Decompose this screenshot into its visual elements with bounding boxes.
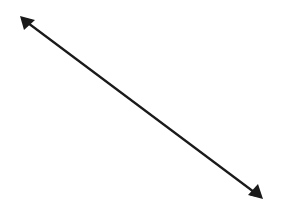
arrow-diagram (0, 0, 281, 207)
double-headed-arrow-line (24, 20, 258, 195)
diagram-canvas (0, 0, 281, 207)
arrowhead-end-icon (248, 184, 263, 199)
